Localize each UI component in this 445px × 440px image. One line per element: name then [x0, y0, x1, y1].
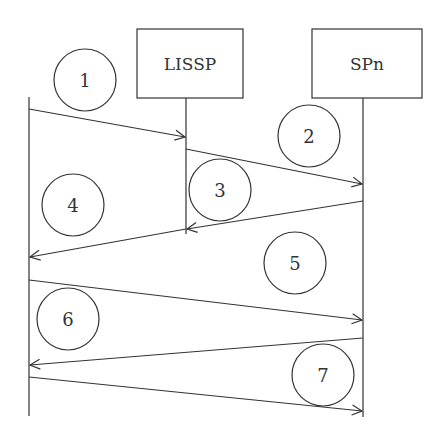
step-badge-5: 5 [264, 232, 326, 294]
step-badge-6: 6 [37, 288, 99, 350]
arrow-step-1 [29, 109, 185, 137]
step-badge-3: 3 [189, 159, 251, 221]
step-badge-1: 1 [54, 49, 116, 111]
sequence-diagram: LISSP SPn 1 2 3 4 5 6 7 [0, 0, 445, 440]
participant-lissp: LISSP [137, 29, 243, 98]
svg-text:4: 4 [67, 195, 78, 216]
step-badge-7: 7 [292, 344, 354, 406]
svg-text:3: 3 [214, 180, 225, 201]
arrow-step-4 [30, 229, 186, 257]
svg-text:7: 7 [317, 365, 328, 386]
svg-text:2: 2 [303, 126, 314, 147]
step-badge-2: 2 [278, 105, 340, 167]
participant-spn: SPn [312, 29, 422, 98]
svg-text:5: 5 [289, 253, 300, 274]
step-badge-4: 4 [42, 174, 104, 236]
svg-text:6: 6 [62, 309, 73, 330]
participant-spn-label: SPn [350, 54, 384, 74]
participant-lissp-label: LISSP [164, 54, 216, 74]
svg-text:1: 1 [79, 70, 90, 91]
